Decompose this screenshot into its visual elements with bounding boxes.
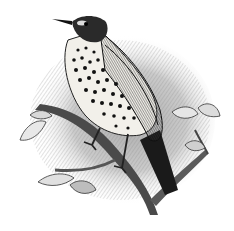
thrush-engraving [0,0,234,231]
engraving-illustration [0,0,234,231]
